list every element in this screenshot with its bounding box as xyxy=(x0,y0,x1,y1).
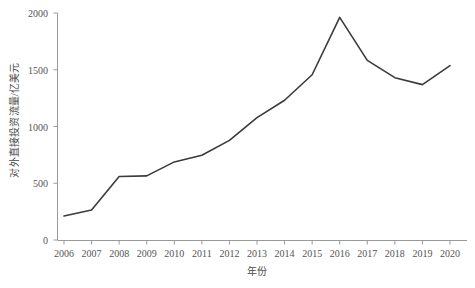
y-tick-label: 2000 xyxy=(0,8,48,19)
y-tick-label: 0 xyxy=(0,235,48,246)
x-tick-label: 2019 xyxy=(412,248,432,259)
data-series-line xyxy=(64,17,450,216)
x-tick-label: 2016 xyxy=(330,248,350,259)
y-tick-label: 1000 xyxy=(0,121,48,132)
chart-canvas xyxy=(0,0,475,288)
x-tick-label: 2020 xyxy=(440,248,460,259)
x-tick-label: 2015 xyxy=(302,248,322,259)
x-tick-label: 2008 xyxy=(109,248,129,259)
x-axis-ticks xyxy=(64,241,450,245)
x-tick-label: 2010 xyxy=(164,248,184,259)
x-tick-label: 2013 xyxy=(247,248,267,259)
x-tick-label: 2014 xyxy=(275,248,295,259)
x-tick-label: 2009 xyxy=(137,248,157,259)
axis-spines xyxy=(58,13,468,241)
x-tick-label: 2018 xyxy=(385,248,405,259)
x-tick-label: 2017 xyxy=(357,248,377,259)
y-tick-label: 500 xyxy=(0,178,48,189)
y-axis-ticks xyxy=(54,13,58,240)
x-axis-label: 年份 xyxy=(247,263,267,278)
x-tick-label: 2006 xyxy=(54,248,74,259)
line-chart-figure: 对外直接投资流量/亿美元 年份 0500100015002000 2006200… xyxy=(0,0,475,288)
x-tick-label: 2011 xyxy=(192,248,212,259)
x-tick-label: 2012 xyxy=(219,248,239,259)
y-tick-label: 1500 xyxy=(0,64,48,75)
x-tick-label: 2007 xyxy=(82,248,102,259)
